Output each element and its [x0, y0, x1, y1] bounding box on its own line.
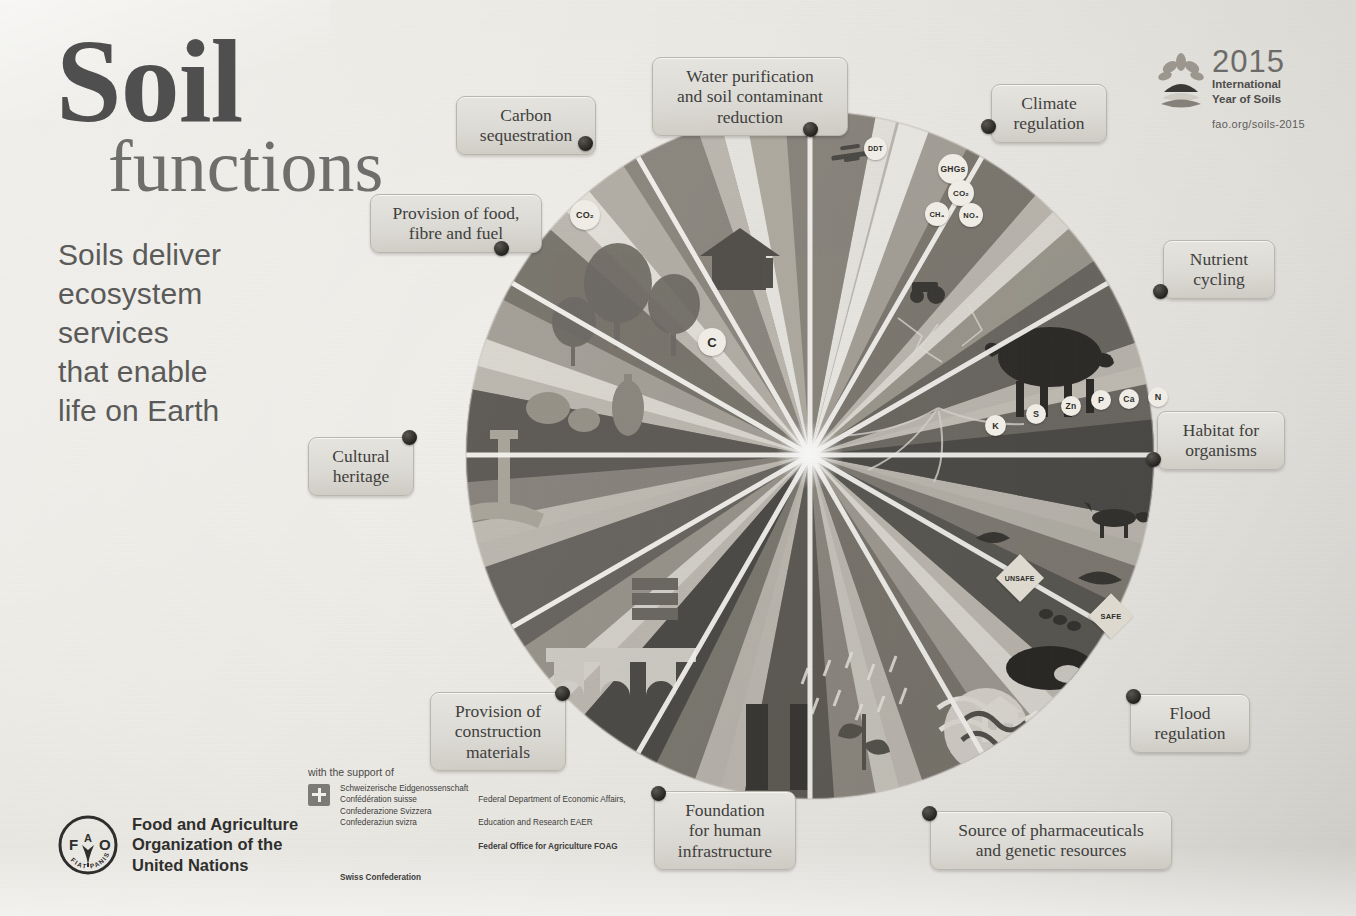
support-credits: with the support of Schweizerische Eidge… [308, 766, 688, 882]
chip-label-safe-tag: SAFE [1101, 612, 1122, 621]
callout-habitat-for-organisms[interactable]: Habitat for organisms [1157, 411, 1285, 470]
federal-line1: Federal Department of Economic Affairs, [478, 794, 625, 806]
swiss-confederation-languages: Schweizerische Eidgenossenschaft Confédé… [340, 783, 468, 830]
swiss-cross-icon [308, 784, 330, 806]
federal-line2: Education and Research EAER [478, 817, 625, 829]
page-title: Soil [56, 28, 476, 137]
fao-organization-name: Food and Agriculture Organization of the… [132, 814, 298, 876]
iys-line1: International [1212, 77, 1285, 92]
callout-dot-provision-construction [555, 686, 570, 701]
iys-line2: Year of Soils [1212, 92, 1285, 107]
chip-nutrient-k: K [985, 415, 1006, 436]
page-subtitle: functions [108, 131, 476, 201]
callout-water-purification[interactable]: Water purification and soil contaminant … [652, 57, 848, 136]
federal-line3: Federal Office for Agriculture FOAG [478, 841, 625, 853]
iys-url[interactable]: fao.org/soils-2015 [1212, 118, 1305, 130]
international-year-of-soils-logo: 2015 International Year of Soils fao.org… [1154, 46, 1334, 144]
callout-dot-provision-food-fibre-fuel [494, 241, 509, 256]
chip-label-unsafe-tag: UNSAFE [1005, 574, 1035, 581]
callout-carbon-sequestration[interactable]: Carbon sequestration [456, 96, 596, 155]
federal-office-credit: Federal Department of Economic Affairs, … [478, 783, 625, 864]
callout-climate-regulation[interactable]: Climate regulation [991, 84, 1107, 143]
soil-sprout-icon [1158, 52, 1204, 112]
callout-source-pharmaceuticals[interactable]: Source of pharmaceuticals and genetic re… [930, 811, 1172, 870]
chip-nutrient-s: S [1026, 404, 1046, 424]
chip-co2-cloud: CO₂ [570, 200, 600, 230]
chip-ghg-ch4: CH₄ [925, 202, 949, 226]
fao-logo: F A O FIAT PANIS [58, 815, 118, 875]
callout-dot-carbon-sequestration [578, 136, 593, 151]
chip-carbon-ball: C [698, 328, 726, 356]
chip-nutrient-n: N [1148, 387, 1168, 407]
chip-nutrient-zn: Zn [1061, 396, 1081, 416]
callout-dot-nutrient-cycling [1153, 284, 1168, 299]
callout-provision-construction[interactable]: Provision of construction materials [430, 692, 566, 771]
callout-nutrient-cycling[interactable]: Nutrient cycling [1163, 240, 1275, 299]
callout-dot-water-purification [803, 122, 818, 137]
callout-dot-source-pharmaceuticals [922, 806, 937, 821]
iys-text-block: 2015 International Year of Soils [1212, 46, 1285, 107]
callout-dot-habitat-for-organisms [1146, 452, 1161, 467]
callout-cultural-heritage[interactable]: Cultural heritage [308, 437, 414, 496]
chip-ghg-no3: NO₃ [959, 203, 983, 227]
svg-text:F: F [69, 836, 78, 853]
callout-flood-regulation[interactable]: Flood regulation [1130, 694, 1250, 753]
svg-text:A: A [84, 832, 92, 844]
fao-branding: F A O FIAT PANIS Food and Agriculture Or… [58, 814, 298, 876]
callout-provision-food-fibre-fuel[interactable]: Provision of food, fibre and fuel [370, 194, 542, 253]
swiss-confederation-label: Swiss Confederation [340, 873, 688, 882]
support-lead-text: with the support of [308, 766, 688, 778]
chip-nutrient-ca: Ca [1119, 389, 1139, 409]
svg-text:O: O [99, 836, 111, 853]
callout-dot-climate-regulation [981, 119, 996, 134]
chip-ddt-drop: DDT [864, 137, 887, 160]
callout-dot-flood-regulation [1126, 689, 1141, 704]
chip-nutrient-p: P [1091, 390, 1111, 410]
tagline: Soils deliver ecosystem services that en… [58, 235, 358, 430]
iys-year: 2015 [1212, 46, 1285, 77]
callout-dot-cultural-heritage [402, 430, 417, 445]
